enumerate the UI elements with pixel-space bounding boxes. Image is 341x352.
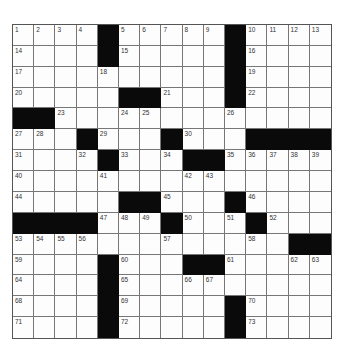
grid-cell[interactable] [161, 255, 182, 276]
grid-cell[interactable]: 40 [13, 171, 34, 192]
grid-cell[interactable]: 43 [204, 171, 225, 192]
grid-cell[interactable] [183, 108, 204, 129]
grid-cell[interactable] [267, 46, 288, 67]
grid-cell[interactable] [161, 67, 182, 88]
grid-cell[interactable] [289, 317, 310, 338]
grid-cell[interactable]: 19 [246, 67, 267, 88]
grid-cell[interactable] [267, 255, 288, 276]
grid-cell[interactable] [246, 255, 267, 276]
grid-cell[interactable]: 35 [225, 150, 246, 171]
grid-cell[interactable] [267, 234, 288, 255]
grid-cell[interactable]: 66 [183, 275, 204, 296]
grid-cell[interactable] [225, 234, 246, 255]
grid-cell[interactable] [34, 88, 55, 109]
grid-cell[interactable]: 55 [55, 234, 76, 255]
grid-cell[interactable] [119, 67, 140, 88]
grid-cell[interactable] [204, 129, 225, 150]
grid-cell[interactable] [267, 108, 288, 129]
grid-cell[interactable]: 58 [246, 234, 267, 255]
grid-cell[interactable] [77, 275, 98, 296]
grid-cell[interactable] [77, 192, 98, 213]
grid-cell[interactable]: 48 [119, 213, 140, 234]
grid-cell[interactable]: 61 [225, 255, 246, 276]
grid-cell[interactable] [267, 88, 288, 109]
grid-cell[interactable]: 22 [246, 88, 267, 109]
grid-cell[interactable] [55, 171, 76, 192]
grid-cell[interactable] [225, 129, 246, 150]
grid-cell[interactable] [289, 67, 310, 88]
grid-cell[interactable]: 60 [119, 255, 140, 276]
grid-cell[interactable] [140, 67, 161, 88]
grid-cell[interactable] [161, 171, 182, 192]
grid-cell[interactable]: 64 [13, 275, 34, 296]
grid-cell[interactable] [246, 275, 267, 296]
grid-cell[interactable] [77, 255, 98, 276]
grid-cell[interactable] [98, 108, 119, 129]
grid-cell[interactable] [267, 192, 288, 213]
grid-cell[interactable] [289, 88, 310, 109]
grid-cell[interactable]: 62 [289, 255, 310, 276]
grid-cell[interactable]: 20 [13, 88, 34, 109]
grid-cell[interactable]: 16 [246, 46, 267, 67]
grid-cell[interactable]: 54 [34, 234, 55, 255]
grid-cell[interactable]: 21 [161, 88, 182, 109]
grid-cell[interactable] [183, 192, 204, 213]
grid-cell[interactable] [140, 171, 161, 192]
grid-cell[interactable] [246, 171, 267, 192]
grid-cell[interactable]: 57 [161, 234, 182, 255]
grid-cell[interactable] [310, 46, 331, 67]
grid-cell[interactable]: 27 [13, 129, 34, 150]
grid-cell[interactable]: 10 [246, 25, 267, 46]
grid-cell[interactable]: 44 [13, 192, 34, 213]
grid-cell[interactable] [267, 275, 288, 296]
grid-cell[interactable] [289, 213, 310, 234]
grid-cell[interactable] [55, 275, 76, 296]
grid-cell[interactable]: 4 [77, 25, 98, 46]
grid-cell[interactable]: 41 [98, 171, 119, 192]
grid-cell[interactable]: 52 [267, 213, 288, 234]
grid-cell[interactable] [204, 67, 225, 88]
grid-cell[interactable]: 63 [310, 255, 331, 276]
grid-cell[interactable] [183, 46, 204, 67]
grid-cell[interactable] [77, 67, 98, 88]
grid-cell[interactable]: 12 [289, 25, 310, 46]
grid-cell[interactable] [225, 171, 246, 192]
grid-cell[interactable] [267, 171, 288, 192]
grid-cell[interactable]: 46 [246, 192, 267, 213]
grid-cell[interactable]: 31 [13, 150, 34, 171]
grid-cell[interactable] [140, 317, 161, 338]
grid-cell[interactable]: 28 [34, 129, 55, 150]
grid-cell[interactable] [140, 150, 161, 171]
grid-cell[interactable] [34, 255, 55, 276]
grid-cell[interactable] [161, 317, 182, 338]
grid-cell[interactable]: 18 [98, 67, 119, 88]
grid-cell[interactable]: 68 [13, 296, 34, 317]
grid-cell[interactable] [140, 129, 161, 150]
grid-cell[interactable] [98, 88, 119, 109]
grid-cell[interactable]: 70 [246, 296, 267, 317]
grid-cell[interactable] [140, 296, 161, 317]
grid-cell[interactable] [140, 234, 161, 255]
grid-cell[interactable]: 17 [13, 67, 34, 88]
grid-cell[interactable]: 8 [183, 25, 204, 46]
grid-cell[interactable] [55, 150, 76, 171]
grid-cell[interactable]: 5 [119, 25, 140, 46]
grid-cell[interactable] [77, 46, 98, 67]
grid-cell[interactable] [289, 192, 310, 213]
grid-cell[interactable]: 7 [161, 25, 182, 46]
grid-cell[interactable] [310, 108, 331, 129]
grid-cell[interactable]: 69 [119, 296, 140, 317]
grid-cell[interactable] [77, 108, 98, 129]
grid-cell[interactable]: 59 [13, 255, 34, 276]
grid-cell[interactable] [183, 317, 204, 338]
grid-cell[interactable] [289, 46, 310, 67]
grid-cell[interactable] [77, 88, 98, 109]
grid-cell[interactable]: 6 [140, 25, 161, 46]
grid-cell[interactable] [289, 108, 310, 129]
grid-cell[interactable] [204, 296, 225, 317]
grid-cell[interactable] [119, 234, 140, 255]
grid-cell[interactable]: 36 [246, 150, 267, 171]
grid-cell[interactable] [98, 192, 119, 213]
grid-cell[interactable] [55, 88, 76, 109]
grid-cell[interactable] [34, 296, 55, 317]
